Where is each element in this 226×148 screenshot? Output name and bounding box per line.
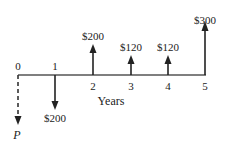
flow-label-5: $300 <box>194 15 216 26</box>
flow-arrow-3 <box>128 55 135 75</box>
axis-label-years: Years <box>98 96 125 107</box>
flow-label-1: $200 <box>44 113 66 124</box>
flow-label-0: P <box>13 130 20 141</box>
period-label-1: 1 <box>52 61 58 72</box>
flow-label-4: $120 <box>157 42 179 53</box>
flow-arrow-0 <box>15 75 22 125</box>
flow-arrow-5 <box>202 21 209 75</box>
flow-label-3: $120 <box>120 42 142 53</box>
flow-label-2: $200 <box>82 31 104 42</box>
period-label-2: 2 <box>90 81 96 92</box>
flow-arrow-1 <box>52 75 59 110</box>
period-label-4: 4 <box>165 81 171 92</box>
period-label-3: 3 <box>128 81 134 92</box>
cash-flow-diagram <box>0 0 226 148</box>
flow-arrow-4 <box>165 55 172 75</box>
flow-arrow-2 <box>90 44 97 75</box>
period-label-0: 0 <box>15 61 21 72</box>
period-label-5: 5 <box>202 81 208 92</box>
